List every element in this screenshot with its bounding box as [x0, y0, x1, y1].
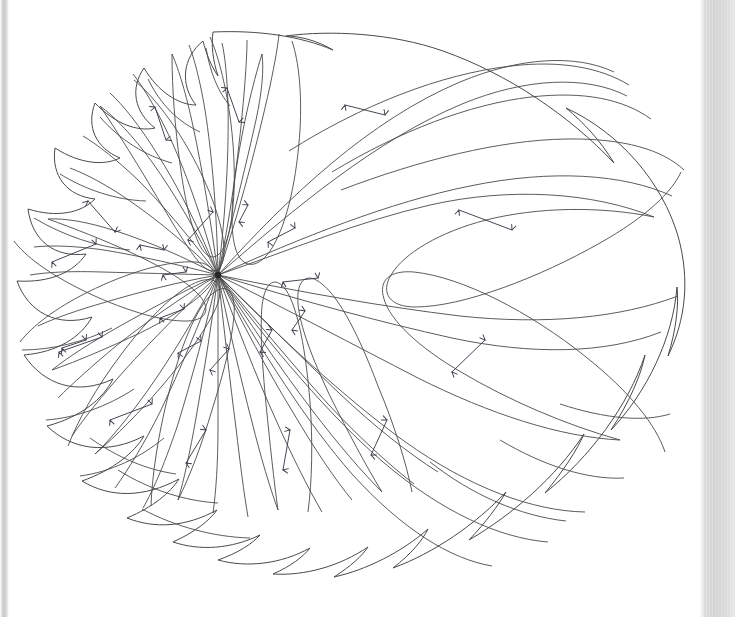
- left-sector-curves: [14, 219, 218, 436]
- upper-left-sector-curves: [70, 34, 301, 275]
- orbit-curve-r13: [500, 440, 624, 478]
- arrowhead-end: [115, 227, 121, 233]
- arrow-shaft: [459, 210, 512, 230]
- arrowhead-end: [480, 335, 485, 340]
- arrowhead-start: [210, 370, 215, 375]
- orbit-curve-r11: [218, 275, 492, 566]
- arrowhead-end: [382, 108, 389, 115]
- outer-boundary-group: [17, 32, 685, 577]
- arrowhead-end: [179, 302, 186, 309]
- right-sector-curves: [218, 61, 684, 566]
- arrowhead-end: [200, 425, 206, 431]
- arrowhead-start: [108, 420, 115, 427]
- arrowhead-start: [452, 372, 457, 377]
- arrow-shaft: [110, 404, 152, 420]
- direction-arrow: [283, 426, 290, 475]
- arrow-shaft: [283, 430, 290, 470]
- direction-arrow: [341, 105, 390, 115]
- orbit-curve-r8: [218, 275, 661, 350]
- direction-arrow: [220, 86, 246, 124]
- direction-arrow: [50, 237, 98, 269]
- direction-arrow: [186, 425, 206, 468]
- arrowhead-end: [290, 221, 297, 228]
- arrowhead-start: [454, 210, 461, 217]
- arrowhead-start: [50, 262, 57, 269]
- arrow-shaft: [239, 205, 248, 222]
- elliptic-loop-right-lower: [218, 272, 665, 452]
- orbit-curve-u5: [83, 136, 218, 275]
- arrowhead-end: [380, 415, 387, 422]
- arrow-shaft: [268, 228, 295, 242]
- orbit-curve-r5: [218, 176, 672, 275]
- arrowhead-start: [186, 462, 192, 468]
- arrow-shaft: [452, 340, 485, 372]
- direction-arrow: [108, 397, 154, 427]
- orbit-curve-u4: [110, 93, 218, 275]
- elliptic-loop-b1: [68, 275, 220, 454]
- arrowhead-start: [292, 329, 298, 335]
- arrowhead-end: [266, 325, 272, 331]
- arrowhead-end: [314, 271, 321, 278]
- elliptic-loop-right-upper: [218, 172, 681, 307]
- outer-boundary-path: [17, 32, 685, 577]
- arrow-shaft: [88, 201, 115, 232]
- orbit-curve-b5: [218, 275, 322, 512]
- orbit-curve-r10: [218, 275, 548, 542]
- arrowhead-end: [283, 426, 290, 433]
- orbit-curve-l3: [38, 275, 218, 326]
- arrow-shaft: [345, 105, 385, 115]
- orbit-curve-b7: [218, 275, 414, 484]
- singular-point-dot: [215, 272, 221, 278]
- arrowhead-start: [57, 352, 64, 359]
- arrowhead-start: [341, 105, 348, 112]
- elliptic-loop-b4: [218, 275, 412, 492]
- arrowhead-end: [299, 306, 305, 312]
- diagram-page: [0, 0, 735, 617]
- orbit-curve-b8: [218, 275, 438, 472]
- direction-arrow-layer: [50, 86, 517, 474]
- arrowhead-start: [239, 220, 245, 226]
- orbit-curve-r4: [332, 95, 651, 172]
- arrow-shaft: [371, 420, 387, 455]
- arrowhead-end: [242, 200, 248, 206]
- arrowhead-start: [283, 467, 290, 474]
- orbit-curve-b10: [142, 509, 250, 538]
- orbit-curve-r3: [289, 64, 629, 151]
- direction-arrow: [82, 201, 120, 233]
- orbit-curve-b9: [118, 470, 218, 503]
- lower-sector-curves: [68, 275, 438, 538]
- orbit-curve-r6: [341, 139, 684, 190]
- band-ul-1: [60, 174, 146, 201]
- arrowhead-end: [510, 223, 517, 230]
- arrowhead-start: [160, 275, 167, 282]
- arrow-shaft: [283, 278, 318, 282]
- arrowhead-start: [136, 245, 143, 252]
- phase-portrait-figure: [0, 0, 735, 617]
- direction-arrow: [280, 271, 321, 290]
- orbit-curve-b11: [90, 438, 176, 474]
- orbit-curve-l2: [30, 272, 218, 275]
- arrowhead-end: [147, 397, 154, 404]
- arrowhead-end: [161, 243, 168, 250]
- orbit-curve-r1: [218, 61, 614, 275]
- band-ul-7: [46, 389, 134, 420]
- direction-arrow: [266, 221, 296, 248]
- orbit-curve-b4: [218, 275, 248, 517]
